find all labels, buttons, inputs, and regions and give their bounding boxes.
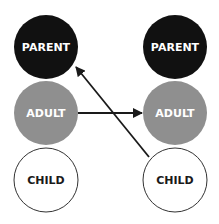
transaction-diagram: PARENT ADULT CHILD PARENT ADULT CHILD [0, 0, 219, 224]
right-child-node: CHILD [143, 148, 207, 212]
left-adult-label: ADULT [26, 107, 66, 120]
right-parent-label: PARENT [151, 41, 200, 54]
left-parent-label: PARENT [22, 41, 71, 54]
left-child-node: CHILD [14, 148, 78, 212]
left-parent-node: PARENT [14, 15, 78, 79]
child-to-parent-arrow [76, 67, 149, 157]
left-adult-node: ADULT [14, 81, 78, 145]
right-adult-node: ADULT [143, 81, 207, 145]
right-adult-label: ADULT [155, 107, 195, 120]
right-child-label: CHILD [156, 174, 194, 187]
left-child-label: CHILD [27, 174, 65, 187]
right-parent-node: PARENT [143, 15, 207, 79]
